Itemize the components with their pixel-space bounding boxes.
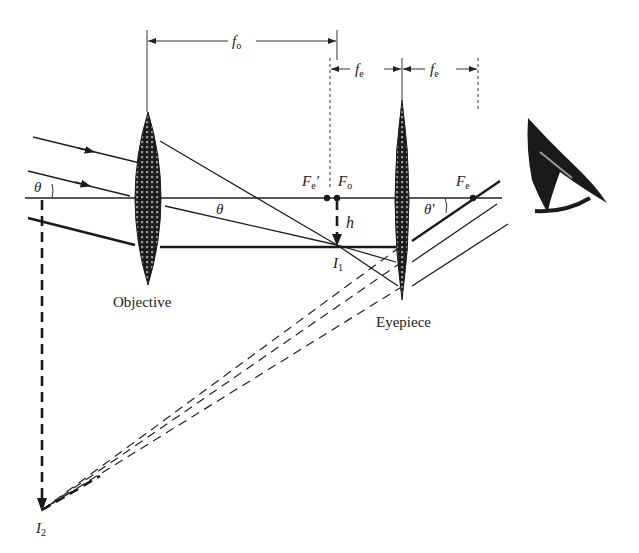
dimension-lines [147, 30, 478, 190]
label-theta-left: θ [34, 179, 42, 195]
telescope-ray-diagram: fo fe fe θ θ θ′ Fe′ Fo Fe h I1 I2 Object… [0, 0, 639, 553]
label-f-eyepiece-2: fe [430, 61, 439, 79]
eyepiece-lens [395, 100, 409, 300]
label-f-eyepiece-1: fe [355, 61, 364, 79]
label-i2: I2 [35, 520, 46, 538]
objective-refracted-rays [160, 141, 398, 286]
label-fe-prime: Fe′ [301, 173, 320, 191]
focal-point-eyepiece-prime [324, 195, 330, 201]
eye-icon [528, 118, 608, 213]
label-theta-prime: θ′ [424, 201, 435, 217]
focal-point-objective [334, 195, 340, 201]
eyepiece-emergent-rays [412, 181, 508, 286]
label-theta-mid: θ [216, 201, 224, 217]
label-objective: Objective [113, 294, 172, 310]
label-eyepiece: Eyepiece [376, 314, 431, 330]
label-h: h [346, 214, 354, 231]
virtual-rays [42, 247, 403, 510]
label-fe: Fe [455, 173, 470, 191]
objective-lens [135, 112, 161, 285]
focal-point-eyepiece [470, 195, 476, 201]
label-i1: I1 [332, 255, 343, 273]
incident-rays [28, 137, 140, 245]
label-fo: Fo [337, 173, 352, 191]
label-f-objective: fo [232, 33, 241, 51]
